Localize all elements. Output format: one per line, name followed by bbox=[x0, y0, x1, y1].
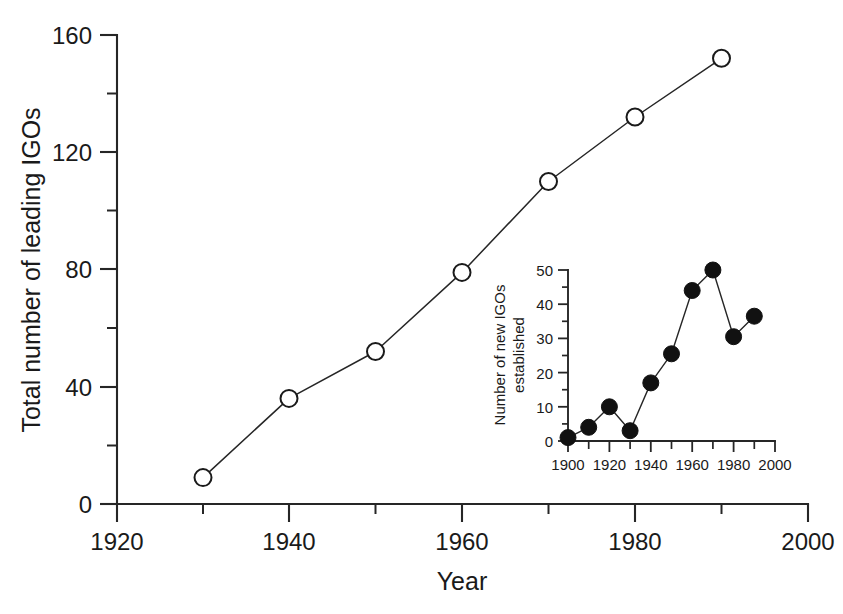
inset-x-tick-label-1980: 1980 bbox=[717, 456, 750, 473]
main-y-tick-label-40: 40 bbox=[65, 374, 92, 401]
inset-series-markers bbox=[560, 262, 762, 446]
inset-x-tick-label-1920: 1920 bbox=[593, 456, 626, 473]
main-y-tick-label-80: 80 bbox=[65, 256, 92, 283]
inset-y-tick-label-10: 10 bbox=[536, 399, 553, 416]
main-x-tick-label-1960: 1960 bbox=[435, 528, 488, 555]
main-x-tick-label-1980: 1980 bbox=[608, 528, 661, 555]
main-x-tick-label-2000: 2000 bbox=[781, 528, 834, 555]
inset-series-line bbox=[568, 270, 754, 438]
main-data-point bbox=[540, 173, 557, 190]
main-data-point bbox=[367, 343, 384, 360]
inset-data-point bbox=[581, 419, 597, 435]
inset-y-axis-title-line1: Number of new IGOs bbox=[491, 285, 508, 426]
inset-data-point bbox=[622, 423, 638, 439]
chart-figure: 160 120 80 40 0 1920 1940 1960 1980 2000… bbox=[0, 0, 843, 614]
main-series-markers bbox=[195, 50, 731, 486]
main-chart-axes bbox=[100, 35, 808, 522]
main-x-major-ticks bbox=[117, 504, 808, 522]
inset-x-tick-labels: 1900 1920 1940 1960 1980 2000 bbox=[551, 456, 791, 473]
chart-canvas: 160 120 80 40 0 1920 1940 1960 1980 2000… bbox=[0, 0, 843, 614]
inset-x-minor-ticks bbox=[589, 441, 755, 449]
inset-y-tick-label-20: 20 bbox=[536, 365, 553, 382]
main-y-tick-labels: 160 120 80 40 0 bbox=[52, 22, 92, 518]
inset-y-tick-labels: 50 40 30 20 10 0 bbox=[536, 262, 553, 450]
inset-series-new-igos bbox=[560, 262, 762, 446]
main-data-point bbox=[281, 390, 298, 407]
main-x-tick-label-1940: 1940 bbox=[262, 528, 315, 555]
inset-data-point bbox=[684, 283, 700, 299]
inset-data-point bbox=[664, 346, 680, 362]
inset-x-tick-label-1900: 1900 bbox=[551, 456, 584, 473]
main-y-major-ticks bbox=[100, 35, 117, 504]
inset-x-tick-label-1960: 1960 bbox=[676, 456, 709, 473]
inset-data-point bbox=[601, 399, 617, 415]
inset-data-point bbox=[643, 375, 659, 391]
inset-data-point bbox=[560, 430, 576, 446]
inset-y-tick-label-0: 0 bbox=[545, 433, 553, 450]
inset-y-tick-label-30: 30 bbox=[536, 330, 553, 347]
main-y-tick-label-160: 160 bbox=[52, 22, 92, 49]
main-x-tick-label-1920: 1920 bbox=[90, 528, 143, 555]
inset-x-tick-label-2000: 2000 bbox=[758, 456, 791, 473]
inset-data-point bbox=[726, 329, 742, 345]
main-data-point bbox=[627, 109, 644, 126]
inset-y-tick-label-50: 50 bbox=[536, 262, 553, 279]
main-y-tick-label-0: 0 bbox=[79, 491, 92, 518]
main-y-tick-label-120: 120 bbox=[52, 139, 92, 166]
main-data-point bbox=[713, 50, 730, 67]
main-series-total-igos bbox=[195, 50, 731, 486]
inset-y-axis-title-line2: established bbox=[510, 317, 527, 393]
inset-y-tick-label-40: 40 bbox=[536, 296, 553, 313]
main-data-point bbox=[454, 264, 471, 281]
main-data-point bbox=[195, 469, 212, 486]
main-x-tick-labels: 1920 1940 1960 1980 2000 bbox=[90, 528, 834, 555]
inset-data-point bbox=[705, 262, 721, 278]
inset-data-point bbox=[746, 308, 762, 324]
inset-x-tick-label-1940: 1940 bbox=[634, 456, 667, 473]
main-y-axis-title: Total number of leading IGOs bbox=[17, 107, 45, 432]
main-x-axis-title: Year bbox=[437, 567, 488, 595]
